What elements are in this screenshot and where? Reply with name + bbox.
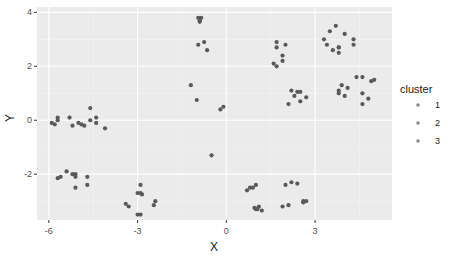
data-point [70,124,74,128]
data-point [280,204,284,208]
data-point [94,115,98,119]
data-point [354,75,358,79]
data-point [138,183,142,187]
data-point [275,64,279,68]
data-point [103,126,107,130]
x-axis-title: X [210,240,218,254]
y-tick-label: 0 [27,115,32,125]
legend-title: cluster [400,83,433,95]
data-point [340,83,344,87]
data-point [331,48,335,52]
data-point [88,106,92,110]
data-point [82,124,86,128]
legend: cluster 1 2 3 [400,83,440,146]
data-point [366,97,370,101]
y-tick-label: 2 [27,61,32,71]
data-point [280,53,284,57]
data-point [64,169,68,173]
data-point [289,180,293,184]
y-axis-title: Y [3,114,17,122]
data-point [286,203,290,207]
x-axis-ticks: -6-303 [45,220,318,236]
data-point [304,199,308,203]
data-point [140,192,144,196]
y-tick-label: -2 [24,169,32,179]
data-point [255,207,259,211]
data-point [360,75,364,79]
data-point [292,94,296,98]
y-axis-ticks: -2024 [24,7,37,179]
scatter-chart: -6-303 -2024 X Y cluster 1 2 3 [0,0,455,259]
data-point [53,122,57,126]
y-tick-label: 4 [27,7,32,17]
data-point [209,153,213,157]
data-point [298,99,302,103]
data-point [152,203,156,207]
x-tick-label: 0 [224,226,229,236]
data-point [334,24,338,28]
data-point [198,20,202,24]
data-point [295,182,299,186]
x-tick-label: -6 [45,226,53,236]
data-point [73,186,77,190]
plot-panel [37,7,392,220]
data-point [325,43,329,47]
data-point [202,40,206,44]
data-point [343,94,347,98]
data-point [138,213,142,217]
data-point [127,204,131,208]
data-point [283,183,287,187]
data-point [59,175,63,179]
legend-key-1 [416,103,420,107]
data-point [346,86,350,90]
data-point [195,98,199,102]
data-point [85,183,89,187]
data-point [322,37,326,41]
data-point [73,172,77,176]
data-point [196,43,200,47]
data-point [360,91,364,95]
data-point [153,199,157,203]
data-point [189,83,193,87]
legend-label-2: 2 [435,118,440,128]
data-point [351,37,355,41]
data-point [337,51,341,55]
data-point [372,78,376,82]
data-point [199,16,203,20]
data-point [298,90,302,94]
data-point [351,43,355,47]
legend-item-2: 2 [416,118,440,128]
data-point [286,102,290,106]
data-point [360,102,364,106]
data-point [205,48,209,52]
data-point [254,183,258,187]
data-point [328,29,332,33]
data-point [88,118,92,122]
legend-key-3 [416,139,420,143]
data-point [337,45,341,49]
data-point [85,175,89,179]
data-point [289,88,293,92]
legend-item-1: 1 [416,100,440,110]
data-point [280,59,284,63]
legend-label-3: 3 [435,136,440,146]
data-point [337,91,341,95]
data-point [260,208,264,212]
legend-item-3: 3 [416,136,440,146]
x-tick-label: -3 [134,226,142,236]
data-point [94,121,98,125]
legend-label-1: 1 [435,100,440,110]
data-point [343,32,347,36]
data-point [56,115,60,119]
data-point [67,115,71,119]
data-point [304,95,308,99]
legend-key-2 [416,121,420,125]
x-tick-label: 3 [313,226,318,236]
data-point [283,43,287,47]
data-point [221,105,225,109]
data-point [275,40,279,44]
data-point [275,45,279,49]
